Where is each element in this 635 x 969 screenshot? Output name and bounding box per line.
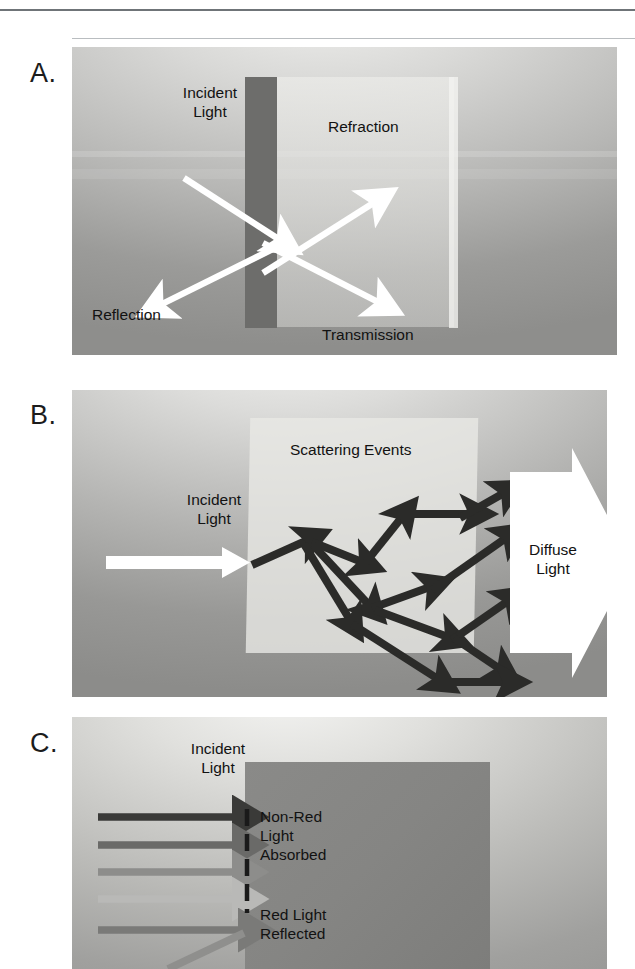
scatter-seg-5	[460, 493, 504, 518]
scatter-seg-8	[432, 538, 506, 590]
panel-c-absorption: Incident Light Non-Red Light Absorbed Re…	[72, 717, 607, 969]
label-diffuse-light: Diffuse Light	[514, 540, 592, 578]
incident-beam-b	[106, 547, 250, 578]
scatter-seg-11	[454, 638, 500, 669]
panel-a-specular: Incident Light Refraction Reflection Tra…	[72, 47, 617, 355]
scatter-seg-1	[252, 540, 308, 565]
label-reflection: Reflection	[92, 305, 161, 324]
figure-page: A. Incident Light Refraction Reflection …	[0, 0, 635, 969]
panel-c-rays	[72, 717, 607, 969]
label-incident-light-c: Incident Light	[166, 739, 270, 777]
reflected-red-ray	[168, 933, 244, 969]
label-scattering-events: Scattering Events	[290, 440, 411, 459]
scatter-seg-9	[375, 610, 448, 637]
label-transmission: Transmission	[322, 325, 414, 344]
panel-b-scattering: Incident Light Scattering Events Diffuse…	[72, 390, 607, 697]
panel-a-letter: A.	[30, 58, 57, 89]
incident-ray-a	[184, 178, 280, 240]
scatter-seg-7	[372, 587, 430, 608]
scatter-seg-3	[366, 517, 402, 562]
panel-c-letter: C.	[30, 728, 58, 759]
label-incident-light-a: Incident Light	[154, 83, 266, 121]
label-incident-light-b: Incident Light	[158, 490, 270, 528]
page-top-rule	[0, 9, 635, 11]
transmission-ray-a	[263, 243, 380, 303]
scatter-seg-10	[452, 601, 508, 640]
panel-b-letter: B.	[30, 400, 57, 431]
page-top-rule-2	[72, 38, 635, 39]
label-refraction: Refraction	[328, 117, 399, 136]
label-nonred-absorbed: Non-Red Light Absorbed	[260, 807, 326, 864]
label-red-reflected: Red Light Reflected	[260, 905, 326, 943]
